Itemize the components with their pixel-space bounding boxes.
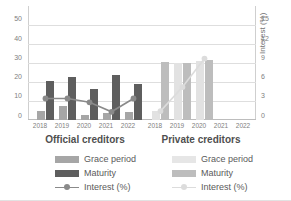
legend-official: Grace period Maturity Interest (%): [55, 152, 136, 194]
legend-label-private-interest: Interest (%): [201, 182, 248, 193]
legend-label-private-grace: Grace period: [201, 154, 253, 165]
bar-private-grace-2018: [152, 111, 160, 121]
legend-swatch-grace-icon: [55, 156, 79, 163]
cat-private-2020: 2020: [188, 122, 210, 130]
legend-item-private-grace[interactable]: Grace period: [172, 152, 253, 166]
legend-swatch-grace-light-icon: [172, 156, 196, 163]
legend-item-official-interest[interactable]: Interest (%): [55, 180, 136, 194]
bar-official-grace-2020: [81, 115, 89, 120]
bar-official-maturity-2021: [112, 75, 120, 120]
legend-label-private-maturity: Maturity: [201, 168, 233, 179]
bar-private-grace-2020: [196, 61, 204, 120]
legend-item-private-interest[interactable]: Interest (%): [172, 180, 253, 194]
bar-private-grace-2019: [174, 63, 182, 120]
bar-official-grace-2022: [125, 112, 133, 120]
y-axis-tick-40: 40: [0, 35, 22, 43]
gridline-20: [28, 82, 256, 83]
gridline-10: [28, 101, 256, 102]
gridline-50: [28, 25, 256, 26]
y2-axis-tick-6: 6: [261, 73, 265, 81]
chart-container: 50 40 30 20 10 0 15 12 9 6 3 0 Years Int…: [0, 0, 291, 201]
group-title-private: Private creditors: [142, 134, 260, 145]
legend-label-official-interest: Interest (%): [84, 182, 131, 193]
y2-axis-title: Interest (%): [258, 13, 267, 54]
bar-private-maturity-2019: [183, 63, 191, 120]
y-axis-title: Years: [0, 50, 1, 70]
bar-official-maturity-2018: [46, 81, 54, 120]
cat-private-2019: 2019: [166, 122, 188, 130]
cat-private-2018: 2018: [144, 122, 166, 130]
bar-private-maturity-2020: [205, 60, 213, 120]
cat-official-2020: 2020: [73, 122, 95, 130]
legend-item-private-maturity[interactable]: Maturity: [172, 166, 253, 180]
cat-official-2022: 2022: [117, 122, 139, 130]
y2-axis-tick-0: 0: [261, 112, 265, 120]
legend-item-official-grace[interactable]: Grace period: [55, 152, 136, 166]
gridline-40: [28, 44, 256, 45]
footer-divider: [0, 200, 291, 201]
legend-label-official-maturity: Maturity: [84, 168, 116, 179]
legend-line-marker-icon: [55, 184, 79, 191]
y-axis-tick-30: 30: [0, 54, 22, 62]
bar-official-maturity-2022: [134, 84, 142, 120]
y-axis-tick-0: 0: [0, 112, 22, 120]
cat-private-2022: 2022: [232, 122, 254, 130]
bar-official-grace-2019: [59, 106, 67, 120]
bar-private-maturity-2018: [161, 62, 169, 120]
legend-private: Grace period Maturity Interest (%): [172, 152, 253, 194]
y-axis-tick-10: 10: [0, 92, 22, 100]
legend-line-marker-light-icon: [172, 184, 196, 191]
legend-swatch-maturity-icon: [55, 170, 79, 177]
cat-official-2021: 2021: [95, 122, 117, 130]
y2-axis-tick-3: 3: [261, 92, 265, 100]
bar-official-maturity-2019: [68, 77, 76, 121]
y-axis-tick-50: 50: [0, 15, 22, 23]
y2-axis-tick-9: 9: [261, 54, 265, 62]
cat-private-2021: 2021: [210, 122, 232, 130]
bar-official-grace-2021: [103, 113, 111, 120]
bar-official-grace-2018: [37, 111, 45, 120]
cat-official-2018: 2018: [29, 122, 51, 130]
plot-area: [28, 6, 256, 120]
gridline-30: [28, 63, 256, 64]
y-axis-tick-20: 20: [0, 73, 22, 81]
group-title-official: Official creditors: [26, 134, 144, 145]
legend-swatch-maturity-light-icon: [172, 170, 196, 177]
bar-official-maturity-2020: [90, 89, 98, 121]
legend-item-official-maturity[interactable]: Maturity: [55, 166, 136, 180]
cat-official-2019: 2019: [51, 122, 73, 130]
legend-label-official-grace: Grace period: [84, 154, 136, 165]
